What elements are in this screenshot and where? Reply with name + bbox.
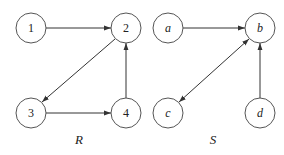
node-d-label: d [257, 106, 264, 120]
graph-r: 1 2 3 4 R [16, 13, 141, 147]
node-3: 3 [16, 98, 46, 128]
node-2-label: 2 [123, 21, 129, 35]
node-2: 2 [111, 13, 141, 43]
node-d: d [245, 98, 275, 128]
node-1: 1 [16, 13, 46, 43]
node-c: c [153, 98, 183, 128]
edge-c-b-bidirectional [179, 39, 249, 102]
node-a-label: a [165, 21, 171, 35]
node-b: b [245, 13, 275, 43]
node-3-label: 3 [28, 106, 34, 120]
node-1-label: 1 [28, 21, 34, 35]
node-b-label: b [257, 21, 263, 35]
graph-s: a b c d S [153, 13, 275, 147]
node-4-label: 4 [123, 106, 129, 120]
graph-s-caption: S [210, 132, 217, 147]
relation-diagrams: 1 2 3 4 R a b c [0, 0, 284, 155]
node-a: a [153, 13, 183, 43]
node-c-label: c [165, 106, 171, 120]
edge-2-to-3 [42, 39, 115, 102]
graph-r-caption: R [74, 132, 83, 147]
node-4: 4 [111, 98, 141, 128]
